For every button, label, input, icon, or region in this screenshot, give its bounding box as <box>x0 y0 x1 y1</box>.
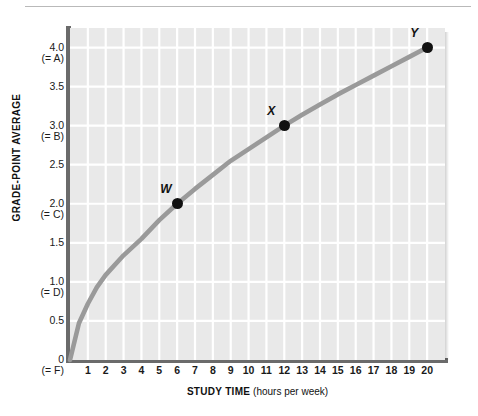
x-tick-20: 20 <box>417 364 437 376</box>
y-tick-grade-letter: (= D) <box>40 287 64 298</box>
x-axis-title-unit: (hours per week) <box>253 386 328 397</box>
y-tick-0-5: 0.5 <box>49 315 64 326</box>
data-point-w[interactable] <box>172 198 183 209</box>
y-tick-value: 2.5 <box>49 158 64 170</box>
y-tick-value: 4.0 <box>49 41 64 53</box>
top-divider-rule <box>25 6 471 7</box>
y-tick-0: 0(= F) <box>42 354 64 376</box>
data-point-x[interactable] <box>279 120 290 131</box>
data-point-label-x: X <box>267 104 275 118</box>
y-tick-2-0: 2.0(= C) <box>40 198 64 220</box>
y-tick-grade-letter: (= A) <box>42 53 64 64</box>
y-axis-title: GRADE-POINT AVERAGE <box>11 58 22 258</box>
y-tick-3-5: 3.5 <box>49 81 64 92</box>
figure: 4.0(= A)3.53.0(= B)2.52.0(= C)1.51.0(= D… <box>0 0 478 416</box>
y-tick-1-0: 1.0(= D) <box>40 276 64 298</box>
data-curve-layer <box>70 28 445 360</box>
y-tick-3-0: 3.0(= B) <box>41 120 64 142</box>
y-tick-2-5: 2.5 <box>49 159 64 170</box>
y-tick-value: 3.0 <box>49 119 64 131</box>
x-axis-title-strong: STUDY TIME <box>187 386 250 397</box>
y-tick-value: 0.5 <box>49 314 64 326</box>
y-tick-1-5: 1.5 <box>49 237 64 248</box>
x-axis-title: STUDY TIME (hours per week) <box>70 386 445 397</box>
y-tick-grade-letter: (= F) <box>42 365 64 376</box>
data-point-label-y: Y <box>410 26 418 40</box>
data-point-label-w: W <box>160 182 171 196</box>
y-tick-value: 1.5 <box>49 236 64 248</box>
y-tick-value: 2.0 <box>49 197 64 209</box>
y-tick-grade-letter: (= B) <box>41 131 64 142</box>
y-tick-4-0: 4.0(= A) <box>42 42 64 64</box>
plot-panel-shadow <box>445 32 449 360</box>
plot-area <box>70 28 445 360</box>
y-tick-grade-letter: (= C) <box>40 209 64 220</box>
data-point-y[interactable] <box>422 42 433 53</box>
y-tick-value: 3.5 <box>49 80 64 92</box>
gpa-curve <box>70 48 427 360</box>
